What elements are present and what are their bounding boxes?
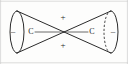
left-cap-back-arc	[17, 11, 24, 53]
right-cone-lower-edge	[64, 32, 111, 53]
orbital-diagram-canvas: C C + + – –	[0, 0, 128, 64]
orbital-diagram-figure: C C + + – –	[0, 0, 128, 64]
left-minus-sign: –	[10, 26, 16, 36]
bottom-plus-sign: +	[60, 40, 65, 50]
right-carbon-label: C	[89, 27, 94, 36]
right-minus-sign: –	[110, 26, 116, 36]
top-plus-sign: +	[60, 12, 65, 22]
left-carbon-label: C	[28, 27, 33, 36]
